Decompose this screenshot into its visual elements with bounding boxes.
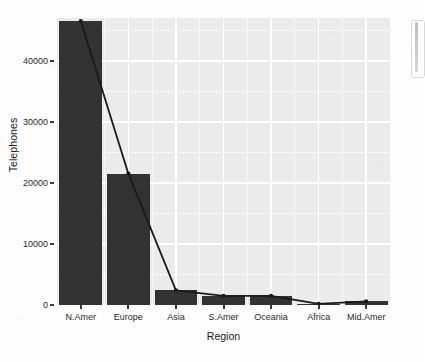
y-axis-tick-group: 010000200003000040000 [0,0,57,362]
x-axis-tick-mark [80,305,82,309]
y-axis-tick-label: 40000 [23,56,48,66]
data-point-marker [126,172,130,176]
x-axis-tick-mark [270,305,272,309]
y-axis-tick-label: 20000 [23,178,48,188]
plot-panel [57,18,390,305]
trend-line [81,21,366,304]
y-axis-tick-mark [50,121,54,123]
data-point-marker [317,302,321,305]
right-edge-panel-artifact [411,20,425,78]
y-axis-tick-label: 30000 [23,117,48,127]
x-axis-title-label: Region [207,330,240,342]
y-axis-tick-mark [50,304,54,306]
y-axis-tick-mark [50,243,54,245]
y-axis-tick-mark [50,60,54,62]
x-axis-tick-label: Europe [114,312,143,322]
x-axis-tick-label: S.Amer [208,312,238,322]
x-axis-tick-label: N.Amer [66,312,97,322]
x-axis-tick-mark [127,305,129,309]
y-axis-tick-label: 0 [43,300,48,310]
data-point-marker [174,288,178,292]
x-axis-tick-mark [223,305,225,309]
x-axis-tick-mark [175,305,177,309]
x-axis-tick-label: Oceania [254,312,288,322]
data-point-marker [221,294,225,298]
data-point-marker [364,299,368,303]
y-axis-tick-mark [50,182,54,184]
y-axis-tick-label: 10000 [23,239,48,249]
scrollbar-thumb[interactable] [415,22,418,72]
x-axis-tick-mark [318,305,320,309]
x-axis-tick-mark [365,305,367,309]
x-axis-tick-label: Africa [307,312,330,322]
x-axis-title: Region [57,330,390,342]
x-axis-tick-label: Mid.Amer [347,312,386,322]
data-point-marker [269,294,273,298]
line-overlay-layer [57,18,390,305]
data-point-marker [79,19,83,23]
x-axis-tick-label: Asia [167,312,185,322]
